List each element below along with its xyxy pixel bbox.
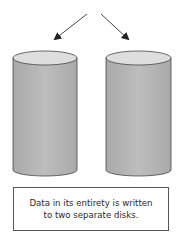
right-arrow-icon <box>101 14 128 39</box>
disk-1-icon <box>13 51 77 176</box>
disk-2-icon <box>106 51 171 176</box>
caption-line-1: Data in its entirety is written <box>29 197 152 209</box>
left-arrow-icon <box>55 14 87 39</box>
caption-line-2: to two separate disks. <box>44 209 139 221</box>
caption-box: Data in its entirety is written to two s… <box>13 187 169 231</box>
